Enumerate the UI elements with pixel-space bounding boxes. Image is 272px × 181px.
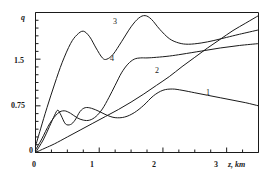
curve-label-3: 3 xyxy=(113,17,117,26)
y-axis-title: q xyxy=(21,13,25,22)
y-tick-label-0: 0 xyxy=(29,146,33,155)
axis-frame xyxy=(36,13,259,153)
curve-label-4: 4 xyxy=(110,54,114,63)
x-axis-title: z, km xyxy=(228,160,245,169)
x-tick-label-0: 0 xyxy=(32,160,36,169)
curve-group xyxy=(36,16,259,153)
curve-4 xyxy=(36,44,259,150)
y-tick-label-0.75: 0.75 xyxy=(11,101,25,110)
y-tick-label-1.5: 1.5 xyxy=(14,56,24,65)
curve-label-1: 1 xyxy=(206,88,210,97)
plot-area xyxy=(0,0,272,181)
x-tick-label-2: 2 xyxy=(152,160,156,169)
chart-figure: q 1.5 0.75 0 0 1 2 3 z, km 1 2 3 4 xyxy=(0,0,272,181)
curve-1 xyxy=(36,89,259,152)
x-tick-label-1: 1 xyxy=(90,160,94,169)
curve-2 xyxy=(36,16,259,153)
tick-marks xyxy=(36,13,259,153)
curve-3 xyxy=(36,16,259,147)
curve-label-2: 2 xyxy=(155,66,159,75)
x-tick-label-3: 3 xyxy=(214,160,218,169)
